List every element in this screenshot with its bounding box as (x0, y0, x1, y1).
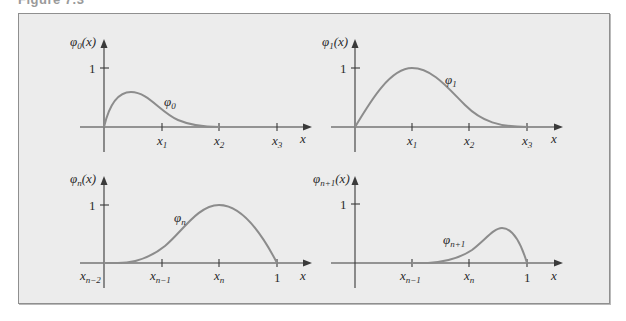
curve-label: φ1 (445, 72, 457, 89)
y-axis-label: φn+1(x) (313, 171, 350, 188)
curve-label: φ0 (164, 94, 176, 111)
x-axis-arrow-icon (554, 260, 563, 267)
x-tick-label-n-minus-1: xn−1 (149, 268, 171, 285)
y-axis-label: φ1(x) (322, 34, 348, 51)
x-axis-label: x (299, 131, 306, 146)
y-axis-arrow-icon (352, 39, 359, 48)
x-tick-label-2: x2 (463, 133, 475, 150)
x-tick-label-n-minus-1: xn−1 (399, 268, 421, 285)
x-tick-label-n: xn (463, 268, 475, 285)
x-tick-label-one: 1 (524, 270, 531, 285)
x-tick-label-n: xn (213, 268, 225, 285)
curve-phi0 (104, 92, 219, 127)
panel-phi1: φ1(x) 1 φ1 x1 x2 x3 x (322, 34, 563, 152)
y-axis-label: φn(x) (70, 171, 96, 188)
x-axis-label: x (299, 268, 306, 283)
y-axis-arrow-icon (101, 39, 108, 48)
x-tick-label-3: x3 (521, 133, 533, 150)
y-tick-label: 1 (89, 61, 96, 76)
x-tick-label-3: x3 (271, 133, 283, 150)
curve-phin (104, 205, 277, 263)
y-axis-arrow-icon (101, 176, 108, 185)
panel-phin: φn(x) 1 φn xn−2 xn−1 xn 1 x (70, 171, 312, 288)
y-axis-arrow-icon (352, 176, 359, 185)
x-axis-label: x (550, 268, 557, 283)
origin-label: xn−2 (79, 268, 101, 285)
x-tick-label-1: x1 (156, 133, 167, 150)
panel-phin1: φn+1(x) 1 φn+1 xn−1 xn 1 x (313, 171, 563, 288)
curve-phin1 (412, 228, 527, 263)
curve-label: φn (174, 210, 186, 227)
y-tick-label: 1 (340, 61, 347, 76)
x-axis-label: x (550, 131, 557, 146)
x-tick-label-one: 1 (274, 270, 281, 285)
x-axis-arrow-icon (303, 260, 312, 267)
x-tick-label-2: x2 (213, 133, 225, 150)
x-axis-arrow-icon (554, 124, 563, 131)
basis-functions-figure: φ0(x) 1 φ0 x1 x2 x3 x φ1(x) 1 φ1 x1 x2 x… (0, 0, 626, 321)
y-tick-label: 1 (89, 198, 96, 213)
curve-phi1 (355, 68, 527, 127)
y-axis-label: φ0(x) (70, 34, 96, 51)
x-tick-label-1: x1 (406, 133, 417, 150)
curve-label: φn+1 (443, 232, 465, 249)
panel-phi0: φ0(x) 1 φ0 x1 x2 x3 x (70, 34, 312, 152)
x-axis-arrow-icon (303, 124, 312, 131)
y-tick-label: 1 (340, 197, 347, 212)
